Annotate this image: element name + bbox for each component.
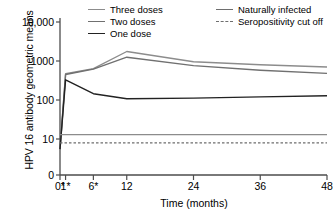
legend-label: Seropositivity cut off (238, 16, 323, 27)
legend-swatch-dashed (216, 21, 233, 22)
chart-legend: Three dosesTwo dosesOne doseNaturally in… (88, 4, 332, 40)
x-tick-label: 48 (321, 180, 333, 192)
legend-label: One dose (110, 28, 151, 39)
legend-label: Naturally infected (238, 4, 311, 15)
legend-item: Three doses (88, 4, 163, 15)
legend-swatch-solid (88, 33, 105, 34)
legend-swatch-solid (88, 21, 105, 22)
legend-swatch-solid (216, 9, 233, 10)
x-tick-label: 1* (61, 180, 71, 192)
x-tick-label: 24 (188, 180, 200, 192)
legend-label: Two doses (110, 16, 155, 27)
hpv-antibody-chart: HPV 16 antibody geometric means 10,00010… (0, 0, 336, 220)
legend-item: Seropositivity cut off (216, 16, 323, 27)
legend-swatch-solid (88, 9, 105, 10)
x-axis-title: Time (months) (60, 197, 328, 209)
x-tick-label: 12 (121, 180, 133, 192)
legend-item: Naturally infected (216, 4, 311, 15)
legend-item: Two doses (88, 16, 155, 27)
legend-label: Three doses (110, 4, 163, 15)
x-tick-label: 6* (88, 180, 98, 192)
x-tick-label: 36 (254, 180, 266, 192)
legend-item: One dose (88, 28, 151, 39)
